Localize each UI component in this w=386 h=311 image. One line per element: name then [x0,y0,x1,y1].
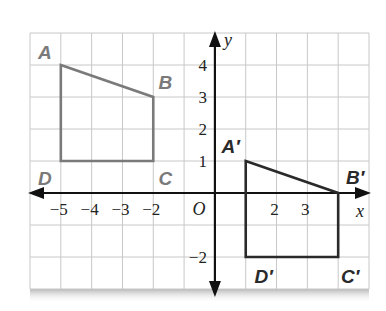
x-axis-label: x [355,201,364,221]
origin-label: O [192,199,205,219]
vertex-label: B [158,72,172,93]
vertex-label: C [158,168,172,189]
vertex-label: B′ [346,167,366,188]
y-tick-label: −2 [189,248,207,267]
x-tick-label: 2 [270,200,279,219]
y-tick-label: 4 [198,56,207,75]
vertex-label: A′ [221,136,242,157]
x-tick-label: −5 [50,200,68,219]
vertex-label: A [37,42,52,63]
y-tick-label: 1 [198,152,207,171]
vertex-label: D [38,168,52,189]
x-tick-label: −4 [81,200,100,219]
vertex-label: C′ [341,266,361,287]
y-tick-label: 2 [198,120,207,139]
grid-shadow [30,289,369,303]
x-tick-label: −2 [142,200,160,219]
x-tick-label: −3 [111,200,129,219]
x-tick-label: 3 [301,200,310,219]
y-tick-label: 3 [198,88,207,107]
coordinate-plane: −5−4−3−2234321−2OxyABCDA′B′C′D′ [0,0,386,311]
y-axis-label: y [222,30,232,50]
vertex-label: D′ [255,266,275,287]
